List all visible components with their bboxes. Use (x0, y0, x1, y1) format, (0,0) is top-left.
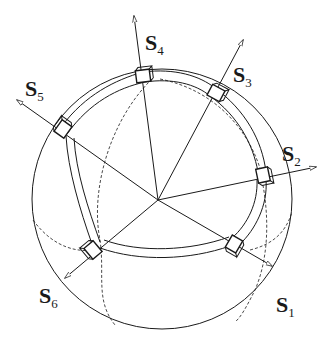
dashed-meridians (33, 79, 292, 325)
label-s5: S5 (25, 76, 44, 104)
axis-s5 (17, 100, 158, 200)
sensor-axes (17, 16, 316, 278)
sensor-block-s6 (80, 238, 102, 261)
label-s4: S4 (145, 30, 164, 58)
label-s3: S3 (233, 62, 252, 90)
sensor-ring (62, 71, 266, 258)
axis-s1 (158, 200, 272, 266)
axis-s6 (65, 200, 158, 278)
label-s6: S6 (39, 283, 58, 311)
label-s2: S2 (282, 141, 301, 169)
axis-s3 (158, 40, 243, 200)
sensor-sphere-diagram: S1S2S3S4S5S6 (0, 0, 326, 338)
diagram-canvas: S1S2S3S4S5S6 (0, 0, 326, 338)
sensor-block-s1 (224, 235, 245, 257)
sensor-block-s4 (135, 66, 154, 83)
label-s1: S1 (276, 292, 295, 320)
